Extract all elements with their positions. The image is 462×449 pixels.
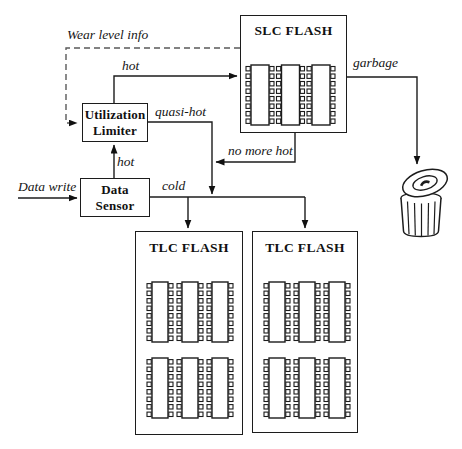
hot-from-sensor-label: hot <box>117 154 134 169</box>
data-sensor-title-line2: Sensor <box>81 198 149 214</box>
utilization-limiter-title-line2: Limiter <box>83 123 147 139</box>
data-sensor-box: Data Sensor <box>80 178 150 217</box>
trash-can-icon <box>399 164 450 236</box>
wear-level-info-label: Wear level info <box>67 27 148 42</box>
tlc-flash-right-box: TLC FLASH <box>252 231 358 433</box>
tlc-flash-right-title: TLC FLASH <box>253 240 357 256</box>
slc-flash-box: SLC FLASH <box>240 15 347 133</box>
hot-to-slc-arrow <box>114 76 237 103</box>
hot-to-slc-label: hot <box>122 58 139 73</box>
garbage-label: garbage <box>353 55 398 70</box>
quasi-hot-label: quasi-hot <box>155 104 206 119</box>
flash-architecture-diagram: SLC FLASH Utilization Limiter Data Senso… <box>0 0 462 449</box>
data-write-label: Data write <box>18 179 76 194</box>
slc-flash-title: SLC FLASH <box>241 23 346 39</box>
utilization-limiter-box: Utilization Limiter <box>82 103 148 142</box>
tlc-flash-left-title: TLC FLASH <box>136 240 242 256</box>
utilization-limiter-title-line1: Utilization <box>83 107 147 123</box>
no-more-hot-label: no more hot <box>228 143 293 158</box>
tlc-flash-left-box: TLC FLASH <box>135 231 243 435</box>
garbage-arrow <box>346 77 417 164</box>
cold-label: cold <box>162 178 185 193</box>
data-sensor-title-line1: Data <box>81 182 149 198</box>
